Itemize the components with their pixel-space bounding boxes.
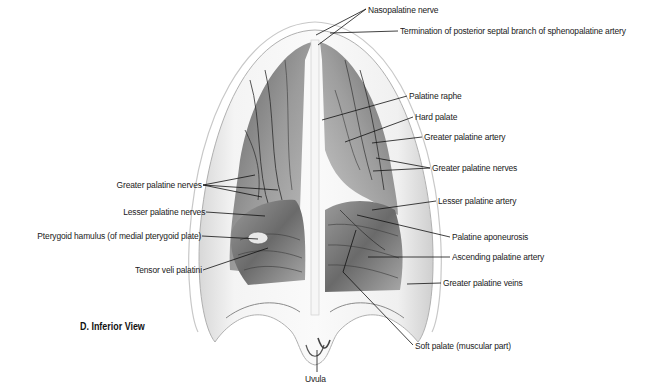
label-nasopalatine-nerve: Nasopalatine nerve [368, 4, 438, 15]
label-tensor-veli-palatini: Tensor veli palatini [135, 264, 202, 275]
label-greater-palatine-nerves-right: Greater palatine nerves [432, 162, 517, 173]
palatine-raphe-shape [311, 40, 319, 315]
label-palatine-raphe: Palatine raphe [409, 90, 462, 101]
label-ascending-palatine-artery: Ascending palatine artery [452, 251, 544, 262]
label-soft-palate-muscular: Soft palate (muscular part) [415, 340, 511, 351]
label-hard-palate: Hard palate [415, 111, 457, 122]
label-greater-palatine-artery: Greater palatine artery [424, 131, 505, 142]
label-posterior-septal-termination: Termination of posterior septal branch o… [400, 25, 626, 36]
label-uvula: Uvula [305, 373, 326, 384]
label-greater-palatine-veins: Greater palatine veins [443, 277, 523, 288]
view-title: D. Inferior View [80, 320, 145, 332]
label-lesser-palatine-nerves: Lesser palatine nerves [123, 206, 205, 217]
right-soft-palate-dissection [325, 201, 403, 292]
label-palatine-aponeurosis: Palatine aponeurosis [452, 231, 528, 242]
palate-diagram: Nasopalatine nerve Termination of poster… [0, 0, 664, 388]
label-greater-palatine-nerves-left: Greater palatine nerves [117, 179, 202, 190]
label-pterygoid-hamulus: Pterygoid hamulus (of medial pterygoid p… [37, 230, 201, 241]
label-lesser-palatine-artery: Lesser palatine artery [438, 195, 516, 206]
